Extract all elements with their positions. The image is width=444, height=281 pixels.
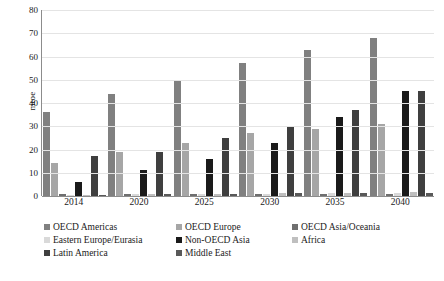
legend-label: OECD Asia/Oceania <box>301 222 380 232</box>
y-axis-tick: 10 <box>14 168 38 177</box>
legend-swatch-icon <box>176 250 182 256</box>
x-axis-tick: 2020 <box>106 197 171 207</box>
legend-item[interactable]: OECD Asia/Oceania <box>292 222 400 232</box>
bar[interactable] <box>43 112 50 196</box>
gridline <box>42 150 434 151</box>
legend-label: Middle East <box>185 248 231 258</box>
bar[interactable] <box>206 159 213 196</box>
y-axis-tick: 40 <box>14 99 38 108</box>
gridline <box>42 80 434 81</box>
bar[interactable] <box>116 152 123 196</box>
legend-swatch-icon <box>176 224 182 230</box>
legend-item[interactable]: Latin America <box>44 248 176 258</box>
legend-row: Eastern Europe/EurasiaNon-OECD AsiaAfric… <box>44 235 400 245</box>
y-axis-tick: 20 <box>14 145 38 154</box>
bar[interactable] <box>418 91 425 196</box>
bar[interactable] <box>140 170 147 196</box>
legend-swatch-icon <box>292 224 298 230</box>
bar[interactable] <box>402 91 409 196</box>
legend-row: OECD AmericasOECD EuropeOECD Asia/Oceani… <box>44 222 400 232</box>
legend-item[interactable]: OECD Americas <box>44 222 176 232</box>
gridline <box>42 57 434 58</box>
y-axis-tick: 30 <box>14 122 38 131</box>
bar[interactable] <box>247 133 254 196</box>
legend-item[interactable]: Eastern Europe/Eurasia <box>44 235 176 245</box>
bar[interactable] <box>174 80 181 196</box>
legend-label: OECD Americas <box>53 222 117 232</box>
bar[interactable] <box>287 126 294 196</box>
x-axis-tick: 2030 <box>237 197 302 207</box>
legend-label: Africa <box>301 235 325 245</box>
x-axis-tick: 2025 <box>172 197 237 207</box>
legend-swatch-icon <box>44 224 50 230</box>
y-axis-tick: 0 <box>14 192 38 201</box>
y-axis-tick: 60 <box>14 52 38 61</box>
x-axis-tick-labels: 201420202025203020352040 <box>41 197 433 207</box>
chart-legend: OECD AmericasOECD EuropeOECD Asia/Oceani… <box>0 219 444 281</box>
gridline <box>42 33 434 34</box>
bar[interactable] <box>239 63 246 196</box>
y-axis-tick: 50 <box>14 75 38 84</box>
y-axis-tick-labels: 01020304050607080 <box>14 10 38 196</box>
x-axis-tick: 2040 <box>368 197 433 207</box>
bar[interactable] <box>108 94 115 196</box>
gridline <box>42 173 434 174</box>
bar[interactable] <box>312 129 319 196</box>
bar[interactable] <box>51 163 58 196</box>
legend-item[interactable]: Middle East <box>176 248 292 258</box>
legend-swatch-icon <box>44 250 50 256</box>
bar[interactable] <box>378 124 385 196</box>
legend-swatch-icon <box>292 237 298 243</box>
x-axis-tick: 2035 <box>302 197 367 207</box>
gridline <box>42 103 434 104</box>
bar[interactable] <box>352 110 359 196</box>
y-axis-tick: 70 <box>14 29 38 38</box>
bar[interactable] <box>75 182 82 196</box>
legend-label: OECD Europe <box>185 222 241 232</box>
legend-swatch-icon <box>176 237 182 243</box>
plot-canvas <box>41 10 433 196</box>
legend-swatch-icon <box>44 237 50 243</box>
x-axis-tick: 2014 <box>41 197 106 207</box>
bar-chart: mtoe 01020304050607080 20142020202520302… <box>0 0 444 281</box>
gridline <box>42 10 434 11</box>
y-axis-tick: 80 <box>14 6 38 15</box>
legend-row: Latin AmericaMiddle East <box>44 248 400 258</box>
legend-item[interactable]: OECD Europe <box>176 222 292 232</box>
plot-area: mtoe 01020304050607080 20142020202520302… <box>0 0 444 214</box>
legend-label: Latin America <box>53 248 108 258</box>
bar[interactable] <box>156 152 163 196</box>
bar[interactable] <box>222 138 229 196</box>
bar[interactable] <box>271 143 278 196</box>
bar[interactable] <box>336 117 343 196</box>
legend-label: Non-OECD Asia <box>185 235 250 245</box>
legend-item[interactable]: Non-OECD Asia <box>176 235 292 245</box>
bar[interactable] <box>182 143 189 196</box>
bar[interactable] <box>304 50 311 196</box>
legend-label: Eastern Europe/Eurasia <box>53 235 142 245</box>
legend-item[interactable]: Africa <box>292 235 400 245</box>
bar[interactable] <box>91 156 98 196</box>
gridline <box>42 126 434 127</box>
